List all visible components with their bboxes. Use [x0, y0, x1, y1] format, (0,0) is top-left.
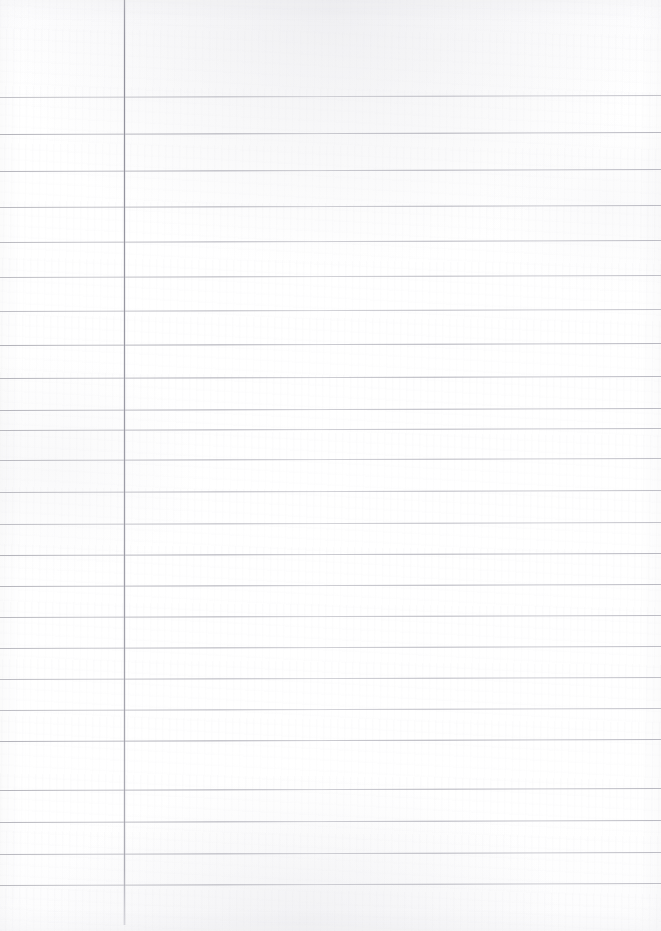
- rule-line: [0, 376, 661, 379]
- rule-line: [0, 553, 661, 556]
- vertical-margin-line: [124, 0, 125, 925]
- scan-edge-shading: [0, 0, 661, 931]
- rule-line: [0, 677, 661, 680]
- rule-line: [0, 458, 661, 461]
- rule-line: [0, 240, 661, 243]
- rule-line: [0, 309, 661, 312]
- rule-line: [0, 852, 661, 855]
- rule-line: [0, 275, 661, 278]
- rule-line: [0, 343, 661, 346]
- scanned-page: [0, 0, 661, 931]
- rule-line: [0, 490, 661, 493]
- rule-line: [0, 169, 661, 172]
- rule-line: [0, 584, 661, 587]
- rule-line: [0, 708, 661, 711]
- rule-line: [0, 95, 661, 98]
- rule-line: [0, 522, 661, 525]
- rule-line: [0, 408, 661, 411]
- rule-line: [0, 788, 661, 791]
- rule-line: [0, 428, 661, 431]
- paper-background: [0, 0, 661, 931]
- rule-line: [0, 646, 661, 649]
- rule-line: [0, 615, 661, 618]
- paper-grain-texture: [0, 0, 661, 931]
- rule-line: [0, 132, 661, 135]
- rule-line: [0, 739, 661, 742]
- rule-line: [0, 205, 661, 208]
- rule-line: [0, 883, 661, 886]
- rule-line: [0, 820, 661, 823]
